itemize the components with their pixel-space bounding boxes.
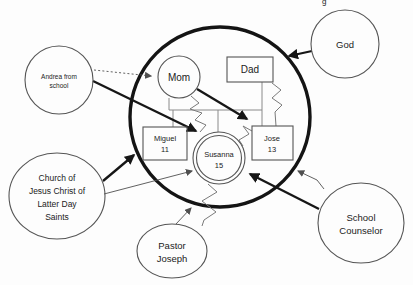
- miguel-rect: [143, 127, 187, 160]
- jose-label-line1: Jose: [264, 134, 280, 143]
- arrow-church-to-circle: [103, 155, 134, 181]
- school-counselor-ellipse: [318, 183, 404, 263]
- pastor-label-line1: Pastor: [158, 240, 185, 251]
- arrow-andrea-to-susanna: [93, 81, 196, 131]
- miguel-label-line1: Miguel: [154, 134, 176, 143]
- node-miguel: Miguel 11: [143, 127, 187, 160]
- andrea-label-line1: Andrea from: [41, 73, 77, 80]
- susanna-label-line2: 15: [215, 161, 223, 170]
- node-andrea: Andrea from school: [25, 46, 93, 114]
- node-god: God: [311, 10, 379, 78]
- ecomap-canvas: g God Andrea from school Church of Jesus…: [0, 0, 413, 285]
- jose-label-line2: 13: [268, 145, 276, 154]
- clipped-text-artifact: g: [322, 0, 326, 6]
- mom-label: Mom: [168, 72, 190, 83]
- node-susanna: Susanna 15: [193, 132, 245, 184]
- church-label-line2: Jesus Christ of: [29, 186, 86, 196]
- pastor-label-line2: Joseph: [157, 253, 188, 264]
- arrow-church-to-susanna: [104, 171, 192, 194]
- susanna-label-line1: Susanna: [204, 150, 234, 159]
- god-label: God: [336, 39, 354, 50]
- node-school-counselor: School Counselor: [318, 183, 404, 263]
- arrow-pastor-to-circle: [176, 208, 191, 224]
- church-label-line4: Saints: [45, 212, 69, 222]
- school-counselor-label-line2: Counselor: [339, 225, 382, 236]
- andrea-circle: [25, 46, 93, 114]
- church-label-line3: Latter Day: [37, 199, 77, 209]
- church-ellipse: [9, 153, 105, 239]
- school-counselor-label-line1: School: [346, 212, 375, 223]
- zigzag-mom-susanna: [190, 96, 206, 132]
- pastor-ellipse: [137, 224, 207, 278]
- dad-label: Dad: [241, 64, 259, 75]
- church-label-line1: Church of: [39, 173, 76, 183]
- arrow-counselor-to-circle: [298, 171, 324, 189]
- ecomap-diagram: g God Andrea from school Church of Jesus…: [0, 0, 413, 285]
- miguel-label-line2: 11: [161, 145, 169, 154]
- zigzag-jose-susanna: [239, 126, 252, 146]
- zigzag-dad-jose: [272, 83, 282, 126]
- node-church: Church of Jesus Christ of Latter Day Sai…: [9, 153, 105, 239]
- node-dad: Dad: [227, 57, 273, 82]
- node-jose: Jose 13: [252, 126, 293, 160]
- arrow-god-to-circle: [289, 51, 312, 56]
- node-pastor: Pastor Joseph: [137, 224, 207, 278]
- arrow-mom-to-jose: [197, 89, 247, 119]
- jose-rect: [252, 126, 293, 160]
- node-mom: Mom: [158, 56, 200, 98]
- andrea-label-line2: school: [50, 82, 69, 89]
